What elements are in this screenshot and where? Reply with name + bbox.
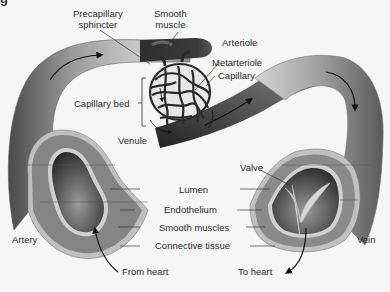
capillary-bed-bracket (138, 78, 146, 126)
clipped-figure-title: g (0, 0, 8, 6)
label-arteriole: Arteriole (222, 37, 257, 48)
label-from-heart: From heart (122, 266, 168, 277)
label-line: Smooth (154, 8, 187, 19)
label-precapillary-sphincter: Precapillary sphincter (73, 8, 123, 30)
label-metarteriole: Metarteriole (212, 57, 262, 68)
label-endothelium: Endothelium (163, 204, 218, 215)
label-lumen: Lumen (178, 184, 209, 195)
capillary-network (150, 52, 210, 126)
label-line: muscle (154, 19, 187, 30)
label-capillary-bed: Capillary bed (74, 98, 129, 109)
label-line: sphincter (73, 19, 123, 30)
label-capillary: Capillary (218, 70, 255, 81)
label-to-heart: To heart (238, 266, 272, 277)
label-venule: Venule (118, 135, 147, 146)
label-vein: Vein (357, 234, 376, 245)
label-line: Precapillary (73, 8, 123, 19)
label-smooth-muscle: Smooth muscle (154, 8, 187, 30)
blood-vessel-diagram: g Precapillary sphincter Smooth muscle A… (0, 0, 390, 292)
label-valve: Valve (240, 162, 263, 173)
label-artery: Artery (12, 234, 37, 245)
artery-cross-section (26, 130, 148, 258)
arteriole (140, 38, 212, 62)
label-connective-tissue: Connective tissue (154, 240, 231, 251)
label-smooth-muscles: Smooth muscles (158, 222, 230, 233)
